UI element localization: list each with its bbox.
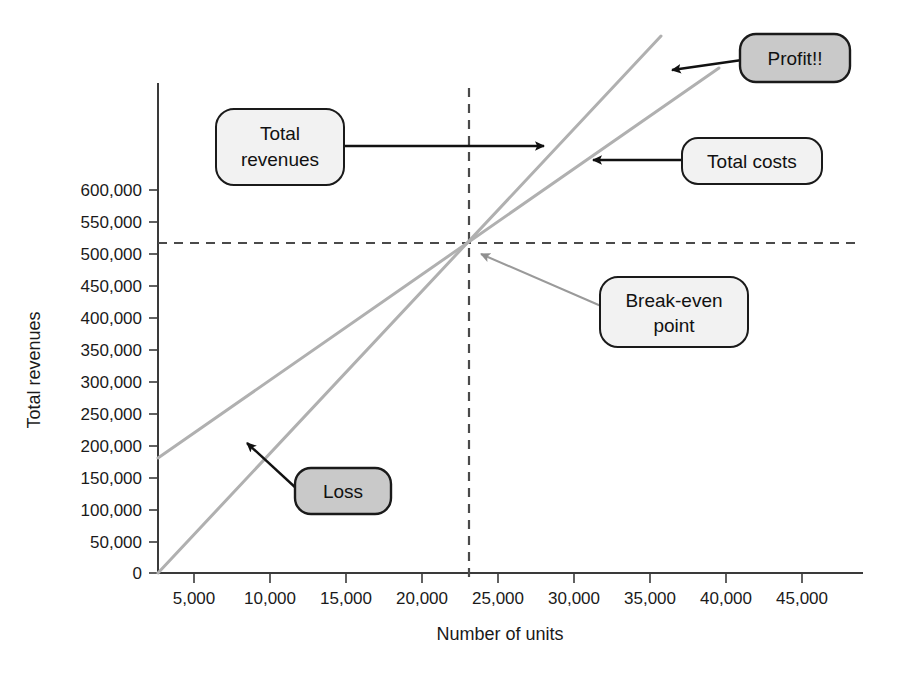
callout-profit[interactable]: Profit!! <box>740 34 850 82</box>
callout-total-revenues[interactable]: Total revenues <box>216 109 344 185</box>
chart-canvas: 600,000 550,000 500,000 450,000 400,000 … <box>0 0 907 674</box>
x-tick-label: 25,000 <box>472 589 524 608</box>
callout-break-even-point-box[interactable] <box>600 277 748 347</box>
y-tick-label: 600,000 <box>81 181 142 200</box>
callout-total-revenues-label-line2: revenues <box>241 149 319 170</box>
callout-break-even-point[interactable]: Break-even point <box>600 277 748 347</box>
x-axis-ticks <box>194 573 802 583</box>
callout-profit-label: Profit!! <box>768 48 823 69</box>
callout-total-revenues-box[interactable] <box>216 109 344 185</box>
profit-leader-arrow <box>672 60 742 70</box>
y-tick-label: 250,000 <box>81 405 142 424</box>
y-axis-tick-labels: 600,000 550,000 500,000 450,000 400,000 … <box>81 181 142 583</box>
callout-total-revenues-label-line1: Total <box>260 123 300 144</box>
x-tick-label: 15,000 <box>320 589 372 608</box>
callout-total-costs-label: Total costs <box>707 151 797 172</box>
break-even-leader-arrow <box>481 254 601 306</box>
x-tick-label: 35,000 <box>624 589 676 608</box>
y-tick-label: 500,000 <box>81 245 142 264</box>
y-axis-ticks <box>149 190 158 573</box>
y-tick-label: 350,000 <box>81 341 142 360</box>
y-tick-label: 100,000 <box>81 501 142 520</box>
x-tick-label: 20,000 <box>396 589 448 608</box>
y-tick-label: 0 <box>133 564 142 583</box>
x-tick-label: 45,000 <box>776 589 828 608</box>
x-tick-label: 30,000 <box>548 589 600 608</box>
y-tick-label: 50,000 <box>90 533 142 552</box>
x-axis-tick-labels: 5,000 10,000 15,000 20,000 25,000 30,000… <box>173 589 828 608</box>
y-tick-label: 300,000 <box>81 373 142 392</box>
x-tick-label: 40,000 <box>700 589 752 608</box>
x-axis-title: Number of units <box>436 624 563 644</box>
x-tick-label: 10,000 <box>244 589 296 608</box>
break-even-chart: 600,000 550,000 500,000 450,000 400,000 … <box>0 0 907 674</box>
callout-break-even-label-line1: Break-even <box>625 290 722 311</box>
callout-total-costs[interactable]: Total costs <box>682 138 822 184</box>
y-tick-label: 400,000 <box>81 309 142 328</box>
y-tick-label: 150,000 <box>81 469 142 488</box>
y-tick-label: 450,000 <box>81 277 142 296</box>
callout-loss[interactable]: Loss <box>295 468 391 514</box>
y-tick-label: 550,000 <box>81 213 142 232</box>
x-tick-label: 5,000 <box>173 589 216 608</box>
callout-loss-label: Loss <box>323 481 363 502</box>
callout-break-even-label-line2: point <box>653 315 695 336</box>
y-axis-title: Total revenues <box>24 311 44 428</box>
y-tick-label: 200,000 <box>81 437 142 456</box>
